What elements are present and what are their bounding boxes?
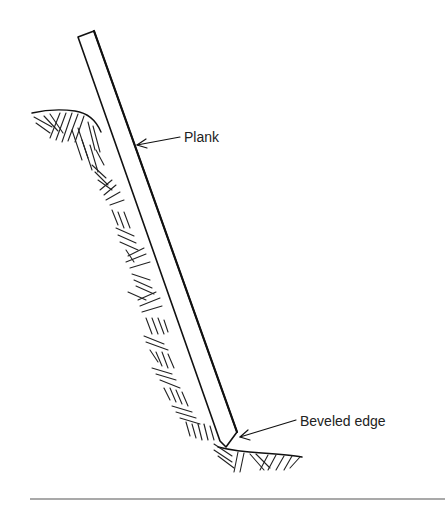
plank-callout: Plank [137,129,220,148]
beveled-edge-label: Beveled edge [300,413,386,429]
plank-diagram: Plank Beveled edge [0,0,445,510]
plank-label: Plank [184,129,220,145]
beveled-edge-leader-line [240,420,296,437]
plank [78,31,237,447]
beveled-edge-callout: Beveled edge [240,413,386,440]
